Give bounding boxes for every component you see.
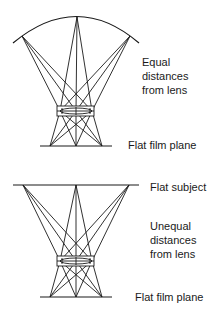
top-film-label: Flat film plane (128, 138, 196, 152)
bottom-film-label: Flat film plane (135, 290, 203, 304)
label-line: distances (150, 233, 196, 247)
label-line: Unequal (150, 219, 196, 233)
bottom-distance-label: Unequal distances from lens (150, 219, 196, 261)
top-distance-label: Equal distances from lens (142, 55, 188, 97)
lens-diagram (0, 0, 220, 323)
label-line: from lens (142, 83, 188, 97)
label-line: Equal (142, 55, 188, 69)
label-line: distances (142, 69, 188, 83)
label-line: from lens (150, 247, 196, 261)
flat-subject-label: Flat subject (150, 180, 206, 194)
